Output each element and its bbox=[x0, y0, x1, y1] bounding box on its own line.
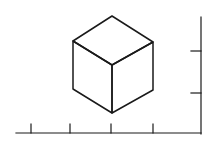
isometric-cube bbox=[73, 16, 153, 113]
isometric-cube-diagram bbox=[0, 0, 207, 146]
diagram-svg bbox=[0, 0, 207, 146]
axes bbox=[16, 17, 201, 134]
y-axis-ticks bbox=[191, 51, 201, 93]
cube-right-face bbox=[112, 42, 153, 113]
x-axis-ticks bbox=[31, 124, 153, 133]
cube-top-face bbox=[73, 16, 153, 65]
cube-left-face bbox=[73, 41, 112, 113]
